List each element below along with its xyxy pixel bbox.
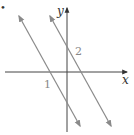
coordinate-diagram: • y x 2 1 [0, 0, 134, 135]
x-axis-label: x [122, 73, 129, 87]
line-2-label: 2 [75, 45, 82, 58]
bullet-marker: • [0, 2, 6, 13]
y-axis-label: y [56, 4, 64, 18]
line-2 [50, 16, 111, 126]
line-1-label: 1 [44, 78, 51, 91]
line-1 [19, 16, 80, 126]
